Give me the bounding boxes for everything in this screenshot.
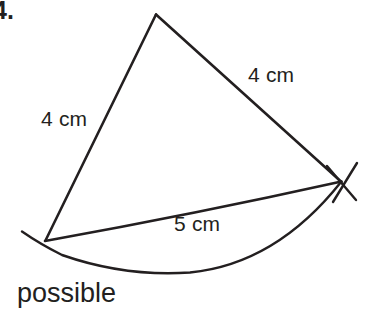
triangle-right-side — [156, 15, 342, 183]
label-side-left: 4 cm — [41, 108, 87, 129]
geometry-figure — [0, 0, 368, 325]
label-base: 5 cm — [174, 213, 220, 234]
label-side-right: 4 cm — [248, 64, 294, 85]
figure-page: 4. 4 cm 4 cm 5 cm possible — [0, 0, 368, 325]
answer-text: possible — [17, 280, 116, 307]
